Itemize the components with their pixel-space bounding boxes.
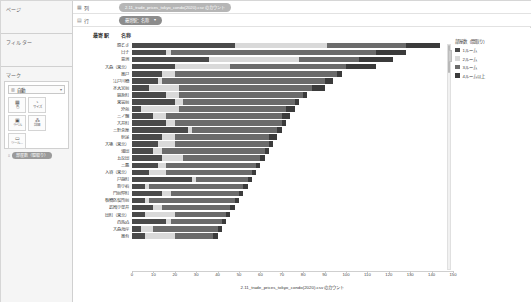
bar-segment[interactable] [282,120,286,126]
bar-segment[interactable] [132,127,188,133]
bar-segment[interactable] [145,233,175,239]
bar-segment[interactable] [175,64,231,70]
bar-segment[interactable] [149,85,179,91]
stacked-bar[interactable] [132,191,243,197]
bar-segment[interactable] [145,212,175,218]
rows-shelf-area[interactable]: 最寄駅：名称 ▾ [103,16,531,25]
bar-segment[interactable] [149,198,235,204]
marks-detail-button[interactable]: ⁂ 詳細 [28,115,46,131]
bar-segment[interactable] [132,64,175,70]
bar-segment[interactable] [132,50,166,56]
stacked-bar[interactable] [132,57,393,63]
bar-segment[interactable] [235,43,327,49]
bar-segment[interactable] [132,205,153,211]
columns-shelf-area[interactable]: 2.11_trade_prices_tokyo_condo(2020).csv … [103,3,531,12]
bar-segment[interactable] [132,99,175,105]
rows-shelf[interactable]: ▤ 行 最寄駅：名称 ▾ [73,14,531,27]
stacked-bar[interactable] [132,134,277,140]
bar-segment[interactable] [175,212,226,218]
bar-segment[interactable] [175,99,184,105]
bar-segment[interactable] [171,50,376,56]
stacked-bar[interactable] [132,226,222,232]
marks-detail-pill[interactable]: 部屋数（間取り） [12,152,52,159]
marks-label-button[interactable]: ▣ ラベル [8,115,26,131]
stacked-bar[interactable] [132,184,248,190]
bar-segment[interactable] [132,141,158,147]
bar-segment[interactable] [260,155,264,161]
bar-segment[interactable] [162,71,175,77]
bar-segment[interactable] [132,92,166,98]
legend-drag-handle[interactable] [448,50,452,62]
bar-segment[interactable] [346,64,376,70]
bar-segment[interactable] [141,226,154,232]
marks-size-button[interactable]: ◔ サイズ [28,97,46,113]
bar-segment[interactable] [269,134,278,140]
bar-segment[interactable] [162,191,171,197]
bar-segment[interactable] [327,43,406,49]
bar-segment[interactable] [183,99,294,105]
bar-segment[interactable] [175,141,269,147]
bar-segment[interactable] [153,113,166,119]
bar-segment[interactable] [153,226,217,232]
stacked-bar[interactable] [132,233,218,239]
bar-segment[interactable] [132,85,149,91]
bar-segment[interactable] [149,170,166,176]
stacked-bar[interactable] [132,163,260,169]
bar-segment[interactable] [175,120,282,126]
bar-segment[interactable] [132,170,149,176]
bar-segment[interactable] [209,57,299,63]
bar-segment[interactable] [132,57,209,63]
stacked-bar[interactable] [132,85,325,91]
bar-segment[interactable] [132,78,158,84]
rows-pill-station[interactable]: 最寄駅：名称 ▾ [119,16,162,25]
bar-segment[interactable] [132,191,162,197]
bar-segment[interactable] [162,205,230,211]
stacked-bar[interactable] [132,141,273,147]
columns-pill-count[interactable]: 2.11_trade_prices_tokyo_condo(2020).csv … [119,3,231,12]
bar-segment[interactable] [256,163,260,169]
bar-segment[interactable] [166,163,256,169]
stacked-bar[interactable] [132,113,290,119]
stacked-bar[interactable] [132,120,286,126]
bar-segment[interactable] [132,155,162,161]
stacked-bar[interactable] [132,99,299,105]
bar-segment[interactable] [162,78,325,84]
bar-segment[interactable] [243,184,247,190]
bar-segment[interactable] [171,191,239,197]
bar-segment[interactable] [132,233,145,239]
bar-segment[interactable] [337,71,341,77]
marks-color-button[interactable]: ▦ 色 [8,97,26,113]
legend-item[interactable]: 2ルーム [455,56,527,62]
bar-segment[interactable] [359,57,393,63]
bar-segment[interactable] [166,120,175,126]
stacked-bar[interactable] [132,92,307,98]
pages-shelf[interactable]: ページ [1,1,72,34]
bar-segment[interactable] [222,219,226,225]
bar-segment[interactable] [132,177,192,183]
bar-segment[interactable] [303,92,307,98]
legend-item[interactable]: 3ルーム [455,64,527,70]
stacked-bar[interactable] [132,148,269,154]
stacked-bar[interactable] [132,64,376,70]
bar-segment[interactable] [149,184,243,190]
bar-segment[interactable] [132,106,141,112]
bar-segment[interactable] [179,92,303,98]
stacked-bar[interactable] [132,78,333,84]
mark-type-select[interactable]: ▥ 自動 ▾ [8,85,65,94]
bar-segment[interactable] [192,127,278,133]
bar-segment[interactable] [132,184,145,190]
bar-segment[interactable] [248,177,252,183]
stacked-bar[interactable] [132,50,406,56]
legend-item[interactable]: 1ルーム [455,47,527,53]
filters-shelf[interactable]: フィルター [1,34,72,67]
marks-tooltip-button[interactable]: ▭ ツール... [8,133,26,149]
bar-segment[interactable] [166,113,282,119]
bar-segment[interactable] [171,219,222,225]
bar-segment[interactable] [325,78,334,84]
bar-segment[interactable] [132,219,166,225]
bar-segment[interactable] [132,198,145,204]
bar-segment[interactable] [376,50,406,56]
stacked-bar[interactable] [132,219,226,225]
bar-segment[interactable] [153,205,162,211]
bar-segment[interactable] [132,212,145,218]
